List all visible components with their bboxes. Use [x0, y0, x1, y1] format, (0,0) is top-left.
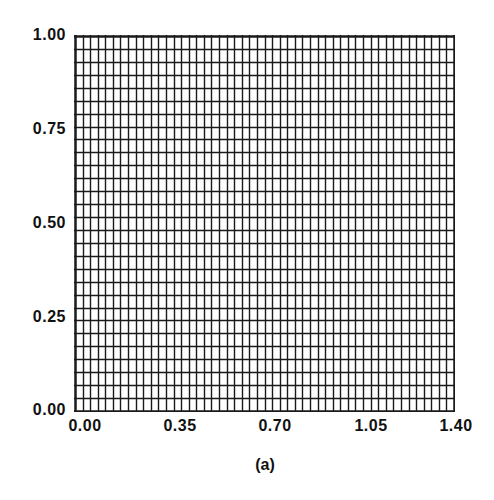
- x-tick-label: 0.35: [150, 418, 210, 434]
- y-tick-label: 0.00: [0, 402, 66, 418]
- y-tick-label: 0.75: [0, 121, 66, 137]
- mesh-plot-area: [74, 35, 455, 412]
- x-tick-label: 0.70: [245, 418, 305, 434]
- y-tick-label: 1.00: [0, 27, 66, 43]
- y-tick-label: 0.25: [0, 309, 66, 325]
- structured-mesh-grid: [74, 35, 455, 412]
- figure-caption: (a): [240, 457, 290, 473]
- x-tick-label: 1.40: [426, 418, 486, 434]
- x-tick-label: 0.00: [55, 418, 115, 434]
- y-tick-label: 0.50: [0, 215, 66, 231]
- x-tick-label: 1.05: [341, 418, 401, 434]
